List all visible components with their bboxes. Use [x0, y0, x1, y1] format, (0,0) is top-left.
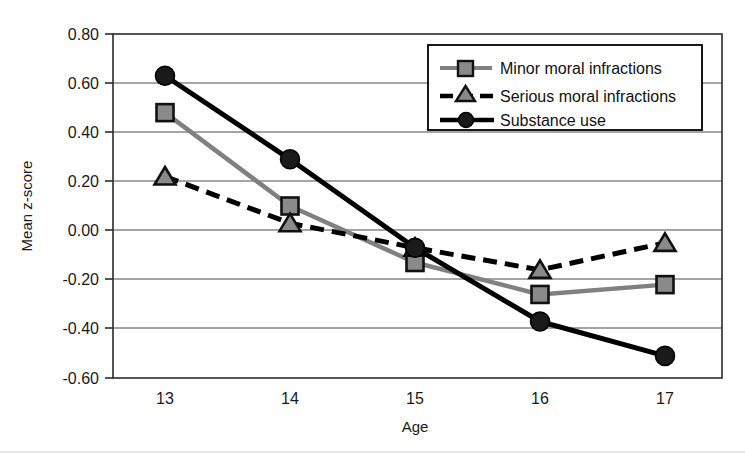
- y-axis-title: Mean z-score: [18, 161, 35, 252]
- circle-marker-icon: [531, 312, 550, 331]
- legend-entry-substance-use[interactable]: Substance use: [440, 112, 606, 129]
- square-marker-icon: [657, 276, 674, 293]
- y-tick-label-1: 0.60: [68, 75, 99, 92]
- legend-entry-minor-moral-infractions[interactable]: Minor moral infractions: [440, 60, 662, 77]
- legend-label-0: Minor moral infractions: [500, 60, 662, 77]
- circle-marker-icon: [156, 66, 175, 85]
- circle-marker-icon: [459, 113, 474, 128]
- y-tick-label-3: 0.20: [68, 173, 99, 190]
- legend-label-1: Serious moral infractions: [500, 88, 676, 105]
- y-tick-label-7: -0.60: [63, 370, 100, 387]
- square-marker-icon: [157, 104, 174, 121]
- x-axis-title: Age: [402, 418, 429, 435]
- y-tick-label-4: 0.00: [68, 222, 99, 239]
- circle-marker-icon: [656, 346, 675, 365]
- x-tick-label-3: 16: [531, 390, 549, 407]
- x-tick-label-4: 17: [656, 390, 674, 407]
- x-tick-label-2: 15: [406, 390, 424, 407]
- x-tick-label-0: 13: [156, 390, 174, 407]
- y-axis-ticks: [105, 34, 113, 378]
- square-marker-icon: [458, 61, 473, 76]
- chart-figure: 0.80 0.60 0.40 0.20 0.00 -0.20 -0.40 -0.…: [0, 0, 745, 461]
- y-tick-label-6: -0.40: [63, 320, 100, 337]
- line-chart: 0.80 0.60 0.40 0.20 0.00 -0.20 -0.40 -0.…: [0, 0, 745, 461]
- y-tick-label-2: 0.40: [68, 124, 99, 141]
- legend-label-2: Substance use: [500, 112, 606, 129]
- chart-legend: Minor moral infractions Serious moral in…: [428, 45, 702, 130]
- y-tick-label-0: 0.80: [68, 26, 99, 43]
- y-tick-label-5: -0.20: [63, 271, 100, 288]
- circle-marker-icon: [406, 238, 425, 257]
- circle-marker-icon: [281, 150, 300, 169]
- x-tick-label-1: 14: [281, 390, 299, 407]
- square-marker-icon: [532, 286, 549, 303]
